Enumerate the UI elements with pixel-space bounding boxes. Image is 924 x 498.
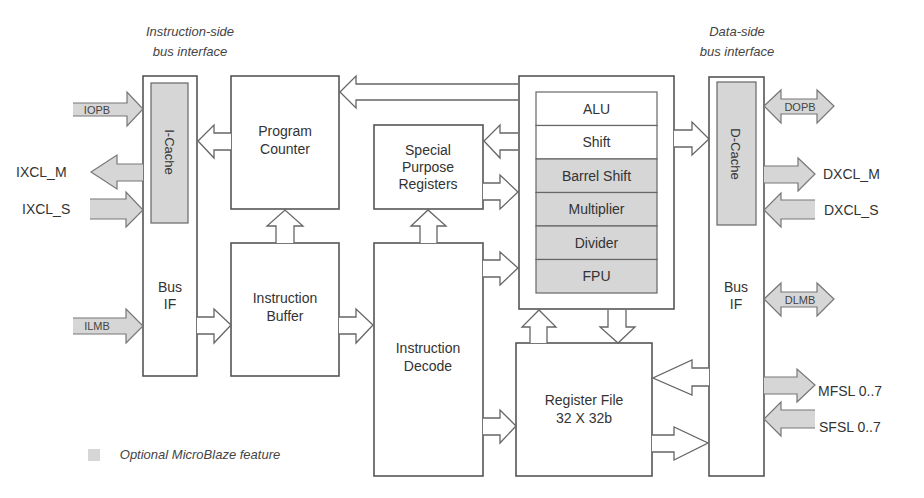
i-bus-if-label-2: IF — [164, 296, 176, 312]
dlmb-label: DLMB — [785, 294, 816, 306]
i-bus-if-label-1: Bus — [158, 279, 182, 295]
dxcl-s-arrow — [764, 193, 815, 227]
decode-to-spr-arrow — [411, 210, 446, 243]
sfsl-label: SFSL 0..7 — [819, 419, 881, 435]
spr-label-3: Registers — [398, 176, 457, 192]
exec-unit-label: FPU — [583, 268, 611, 284]
dopb-label: DOPB — [784, 101, 815, 113]
execution-unit: ALUShiftBarrel ShiftMultiplierDividerFPU — [519, 76, 674, 309]
exec-to-regfile-arrow — [600, 310, 635, 343]
ixcl-s-arrow — [90, 192, 143, 227]
register-file-label-2: 32 X 32b — [556, 410, 612, 426]
pc-to-icache-arrow — [198, 125, 231, 158]
register-file-label-1: Register File — [545, 392, 624, 408]
legend-swatch — [88, 449, 100, 461]
instruction-side-header-line1: Instruction-side — [146, 24, 234, 39]
microblaze-diagram: Instruction-side bus interface Data-side… — [0, 0, 924, 498]
instruction-buffer-label-2: Buffer — [266, 308, 303, 324]
instruction-side-header-line2: bus interface — [153, 44, 227, 59]
program-counter-label-2: Counter — [260, 141, 310, 157]
data-bus-if: D-Cache Bus IF — [709, 77, 764, 476]
decode-to-regfile-arrow — [483, 410, 516, 443]
regfile-to-exec-arrow — [522, 310, 556, 343]
ibuffer-to-pc-arrow — [267, 210, 303, 243]
instruction-buffer-block: Instruction Buffer — [231, 243, 339, 376]
exec-unit-label: ALU — [583, 101, 610, 117]
instruction-decode-block: Instruction Decode — [374, 243, 483, 476]
dbusif-to-regfile-arrow — [653, 360, 709, 395]
exec-unit-label: Divider — [575, 235, 619, 251]
instruction-bus-if: I-Cache Bus IF — [143, 76, 197, 376]
data-side-header-line1: Data-side — [709, 24, 765, 39]
instruction-decode-label-2: Decode — [404, 358, 452, 374]
exec-unit-label: Barrel Shift — [562, 168, 631, 184]
spr-label-1: Special — [405, 142, 451, 158]
exec-to-pc-arrow — [340, 76, 518, 108]
legend-label: Optional MicroBlaze feature — [120, 447, 280, 462]
instruction-buffer-label-1: Instruction — [253, 290, 318, 306]
special-purpose-registers-block: Special Purpose Registers — [374, 125, 483, 209]
dxcl-m-label: DXCL_M — [823, 166, 880, 182]
ixcl-m-label: IXCL_M — [16, 164, 67, 180]
exec-to-spr-arrow — [484, 125, 518, 158]
ilmb-label: ILMB — [84, 320, 110, 332]
program-counter-label-1: Program — [258, 123, 312, 139]
ibuffer-to-decode-arrow — [339, 309, 373, 343]
mfsl-arrow — [764, 369, 815, 402]
iopb-label: IOPB — [84, 104, 110, 116]
instruction-decode-label-1: Instruction — [396, 340, 461, 356]
d-cache-label: D-Cache — [728, 128, 743, 179]
data-side-header-line2: bus interface — [700, 44, 774, 59]
i-cache-label: I-Cache — [162, 129, 177, 175]
exec-unit-label: Multiplier — [568, 201, 624, 217]
exec-unit-label: Shift — [582, 134, 610, 150]
regfile-to-dbusif-arrow — [652, 427, 708, 460]
decode-to-exec-arrow — [483, 252, 518, 285]
spr-to-exec-arrow — [483, 175, 518, 209]
ixcl-m-arrow — [91, 155, 143, 189]
d-bus-if-label-2: IF — [730, 296, 742, 312]
dxcl-s-label: DXCL_S — [824, 202, 878, 218]
register-file-block: Register File 32 X 32b — [516, 343, 652, 476]
dxcl-m-arrow — [764, 158, 815, 191]
ixcl-s-label: IXCL_S — [22, 201, 70, 217]
program-counter-block: Program Counter — [231, 76, 339, 209]
d-bus-if-label-1: Bus — [724, 279, 748, 295]
mfsl-label: MFSL 0..7 — [818, 383, 882, 399]
sfsl-arrow — [764, 402, 815, 436]
exec-to-dcache-arrow — [674, 122, 709, 155]
busif-to-ibuffer-arrow — [197, 309, 231, 343]
spr-label-2: Purpose — [402, 159, 454, 175]
